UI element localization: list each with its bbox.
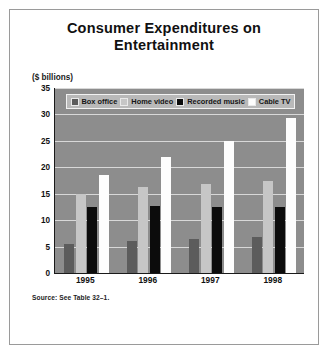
legend-swatch-icon [176, 98, 184, 106]
chart-plot-wrapper: 05101520253035 Box officeHome videoRecor… [32, 88, 304, 273]
x-axis-tick-label: 1995 [76, 275, 95, 285]
bar[interactable] [64, 244, 74, 273]
bar[interactable] [76, 194, 86, 273]
bar[interactable] [212, 207, 222, 273]
bar[interactable] [99, 175, 109, 273]
x-axis: 1995199619971998 [54, 275, 304, 288]
legend-label: Home video [131, 98, 173, 106]
bar-group [189, 88, 234, 273]
legend-item[interactable]: Home video [120, 98, 173, 106]
bar[interactable] [150, 206, 160, 273]
y-axis-tick-label: 10 [41, 216, 50, 225]
y-axis-tick-label: 20 [41, 163, 50, 172]
bar[interactable] [87, 207, 97, 273]
page-title: Consumer Expenditures on Entertainment [20, 20, 308, 54]
chart-legend: Box officeHome videoRecorded musicCable … [66, 94, 295, 109]
legend-swatch-icon [120, 98, 128, 106]
bar[interactable] [286, 118, 296, 273]
bar[interactable] [201, 184, 211, 273]
legend-label: Cable TV [259, 98, 291, 106]
bar[interactable] [263, 181, 273, 274]
legend-swatch-icon [248, 98, 256, 106]
y-axis-tick-label: 25 [41, 136, 50, 145]
bar-group [252, 88, 297, 273]
figure-frame: Consumer Expenditures on Entertainment (… [9, 9, 319, 345]
bar-group [127, 88, 172, 273]
x-axis-tick-label: 1998 [263, 275, 282, 285]
bar[interactable] [127, 241, 137, 273]
legend-item[interactable]: Recorded music [176, 98, 245, 106]
bar[interactable] [138, 187, 148, 273]
legend-label: Recorded music [187, 98, 245, 106]
y-axis-tick-label: 0 [45, 269, 50, 278]
legend-label: Box office [82, 98, 118, 106]
legend-item[interactable]: Cable TV [248, 98, 291, 106]
legend-swatch-icon [71, 98, 79, 106]
bar-group [64, 88, 109, 273]
plot-area: Box officeHome videoRecorded musicCable … [54, 88, 304, 274]
source-note: Source: See Table 32–1. [32, 294, 109, 301]
y-axis-tick-label: 35 [41, 84, 50, 93]
bar[interactable] [224, 141, 234, 273]
bars-layer [55, 88, 304, 273]
y-axis-tick-label: 5 [45, 242, 50, 251]
y-axis-units-label: ($ billions) [32, 73, 73, 82]
bar[interactable] [252, 237, 262, 273]
y-axis-tick-label: 30 [41, 110, 50, 119]
bar[interactable] [161, 157, 171, 273]
bar[interactable] [189, 239, 199, 273]
legend-item[interactable]: Box office [71, 98, 118, 106]
bar[interactable] [275, 207, 285, 273]
x-axis-tick-label: 1996 [138, 275, 157, 285]
x-axis-tick-label: 1997 [201, 275, 220, 285]
y-axis: 05101520253035 [32, 88, 50, 273]
y-axis-tick-label: 15 [41, 189, 50, 198]
